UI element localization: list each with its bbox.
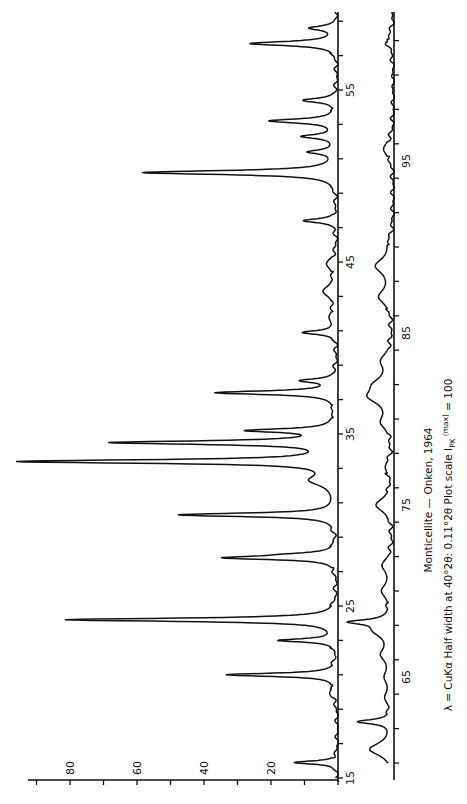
svg-text:95: 95 <box>400 154 413 168</box>
lower-diffraction-trace <box>347 12 394 763</box>
svg-text:60: 60 <box>131 761 144 775</box>
svg-text:35: 35 <box>344 427 357 441</box>
lower-strip: 65758595 <box>347 12 413 780</box>
caption-details: λ = CuKα Half width at 40°2θ: 0.11°2θ Pl… <box>441 379 457 712</box>
intensity-axis: 20406080 <box>28 761 338 785</box>
two-theta-tick-label: 95 <box>400 154 413 168</box>
svg-text:Monticellite — Onken, 1964: Monticellite — Onken, 1964 <box>422 427 434 572</box>
svg-text:80: 80 <box>64 761 77 775</box>
two-theta-tick-label: 25 <box>344 599 357 613</box>
svg-text:85: 85 <box>400 326 413 340</box>
svg-text:25: 25 <box>344 599 357 613</box>
two-theta-tick-label: 65 <box>400 670 413 684</box>
caption-sub-pk: PK <box>448 437 457 448</box>
svg-text:40: 40 <box>198 761 211 775</box>
caption-title: Monticellite — Onken, 1964 <box>422 427 434 572</box>
xrd-pattern-chart: 20406080 1525354555 65758595 Monticellit… <box>0 0 467 804</box>
upper-strip: 1525354555 <box>17 12 357 785</box>
two-theta-tick-label: 55 <box>344 83 357 97</box>
svg-text:λ = CuKα Half width at 40°2θ: λ = CuKα Half width at 40°2θ: 0.11°2θ Pl… <box>441 379 457 712</box>
intensity-tick-label: 40 <box>198 761 211 775</box>
two-theta-tick-label: 35 <box>344 427 357 441</box>
svg-text:45: 45 <box>344 255 357 269</box>
caption-details-main: λ = CuKα Half width at 40°2θ: 0.11°2θ Pl… <box>442 448 454 712</box>
svg-text:55: 55 <box>344 83 357 97</box>
svg-text:65: 65 <box>400 670 413 684</box>
upper-diffraction-trace <box>17 12 338 778</box>
svg-text:15: 15 <box>344 771 357 785</box>
svg-text:20: 20 <box>265 761 278 775</box>
intensity-tick-label: 20 <box>265 761 278 775</box>
svg-text:75: 75 <box>400 498 413 512</box>
two-theta-tick-label: 85 <box>400 326 413 340</box>
caption-scale-value: = 100 <box>442 379 454 415</box>
intensity-tick-label: 60 <box>131 761 144 775</box>
caption-sup-max: (max) <box>441 414 450 436</box>
two-theta-tick-label: 15 <box>344 771 357 785</box>
two-theta-tick-label: 75 <box>400 498 413 512</box>
two-theta-tick-label: 45 <box>344 255 357 269</box>
intensity-tick-label: 80 <box>64 761 77 775</box>
